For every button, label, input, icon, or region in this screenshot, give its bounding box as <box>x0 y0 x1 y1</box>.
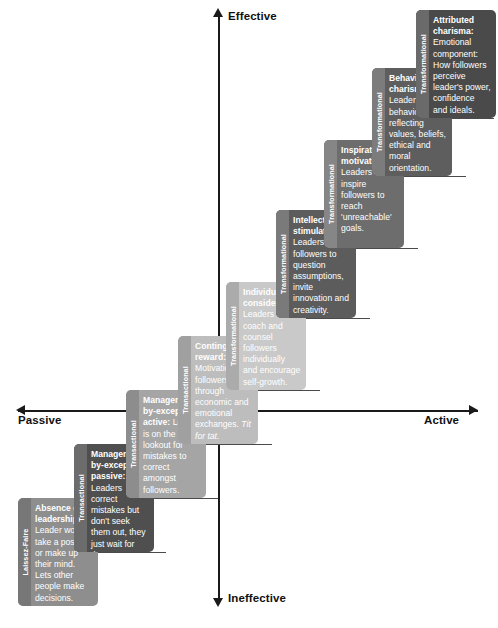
step-description: Leaders guide followers to question assu… <box>293 237 349 314</box>
step-connector-line <box>148 498 218 499</box>
category-tab: Transactional <box>178 336 191 444</box>
category-tab-label: Transformational <box>418 34 427 94</box>
arrow-up-icon <box>213 8 223 17</box>
step-connector-line <box>96 552 166 553</box>
step-connector-line <box>298 318 370 319</box>
step-connector-line <box>248 390 320 391</box>
step-heading: Attributed charisma: <box>433 15 474 36</box>
step-description: Leaders who inspire followers to reach '… <box>341 167 392 233</box>
category-tab: Laissez-Faire <box>18 498 31 606</box>
category-tab: Transformational <box>372 68 385 176</box>
category-tab: Transactional <box>126 390 139 498</box>
category-tab-label: Transactional <box>180 366 189 414</box>
axis-label-ineffective: Ineffective <box>228 592 286 604</box>
category-tab: Transformational <box>324 140 337 248</box>
leadership-model-diagram: Effective Ineffective Passive Active Lai… <box>0 0 498 628</box>
category-tab: Transformational <box>226 282 239 390</box>
arrow-down-icon <box>213 598 223 607</box>
step-description: Leaders who coach and counsel followers … <box>243 309 300 386</box>
category-tab-label: Transformational <box>228 306 237 366</box>
category-tab-label: Transformational <box>374 92 383 152</box>
vertical-axis <box>218 16 220 600</box>
category-tab-label: Transformational <box>326 164 335 224</box>
category-tab: Transformational <box>276 210 289 318</box>
axis-label-effective: Effective <box>228 10 277 22</box>
arrow-right-icon <box>469 405 478 415</box>
category-tab: Transformational <box>416 10 429 118</box>
category-tab: Transactional <box>74 444 87 552</box>
step-connector-line <box>200 444 272 445</box>
category-tab-label: Laissez-Faire <box>20 529 29 576</box>
step-connector-line <box>346 248 418 249</box>
category-tab-label: Transactional <box>76 474 85 522</box>
step-description: Emotional component: How followers perce… <box>433 37 491 114</box>
axis-label-passive: Passive <box>18 414 62 426</box>
step-connector-line <box>394 176 466 177</box>
category-tab-label: Transformational <box>278 234 287 294</box>
step-text: Attributed charisma: Emotional component… <box>433 15 491 116</box>
category-tab-label: Transactional <box>128 420 137 468</box>
axis-label-active: Active <box>424 414 459 426</box>
step-box-attributed-charisma[interactable]: TransformationalAttributed charisma: Emo… <box>416 10 496 118</box>
